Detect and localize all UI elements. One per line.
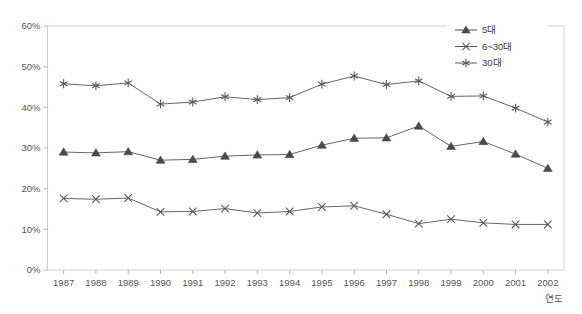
x-axis-tick-label: 1993	[247, 277, 268, 288]
y-axis-tick-label: 50%	[21, 61, 41, 72]
x-axis-tick-label: 1994	[279, 277, 300, 288]
x-axis-tick-label: 1996	[344, 277, 365, 288]
x-axis-tick-label: 1987	[53, 277, 74, 288]
x-axis-tick-label: 1991	[182, 277, 203, 288]
line-chart: 0%10%20%30%40%50%60%19871988198919901991…	[0, 0, 582, 314]
x-axis-tick-label: 1989	[118, 277, 139, 288]
y-axis-tick-label: 60%	[21, 20, 41, 31]
x-axis-tick-label: 1998	[408, 277, 429, 288]
y-axis-tick-label: 30%	[21, 142, 41, 153]
x-axis-tick-label: 1990	[150, 277, 171, 288]
x-axis-tick-label: 1988	[85, 277, 106, 288]
legend: 5대6~30대30대	[447, 19, 547, 73]
x-axis-tick-label: 1997	[376, 277, 397, 288]
y-axis-tick-label: 0%	[27, 264, 41, 275]
y-axis-tick-label: 10%	[21, 224, 41, 235]
y-axis-tick-label: 20%	[21, 183, 41, 194]
y-axis-tick-label: 40%	[21, 102, 41, 113]
x-axis-tick-label: 2000	[473, 277, 494, 288]
chart-canvas: 0%10%20%30%40%50%60%19871988198919901991…	[0, 0, 582, 314]
x-axis-tick-label: 2002	[537, 277, 558, 288]
legend-label-3: 30대	[482, 57, 502, 68]
x-axis-tick-label: 2001	[505, 277, 526, 288]
x-axis-tick-label: 1992	[214, 277, 235, 288]
legend-label-2: 6~30대	[482, 41, 512, 52]
x-axis-tick-label: 1999	[440, 277, 461, 288]
legend-label-1: 5대	[482, 24, 496, 35]
x-axis-title: 연도	[545, 293, 563, 304]
x-axis-tick-label: 1995	[311, 277, 332, 288]
